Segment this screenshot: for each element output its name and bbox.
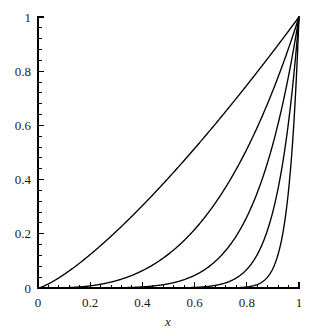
y-tick-label: 0.6 [15, 118, 32, 133]
x-tick-label: 1 [296, 295, 303, 310]
x-axis-title: x [164, 314, 171, 329]
plot-canvas: 00.20.40.60.8100.20.40.60.81 x [0, 0, 319, 336]
x-tick-label: 0.8 [239, 295, 255, 310]
x-tick-label: 0.4 [134, 295, 151, 310]
y-tick-label: 0.4 [15, 172, 32, 187]
y-tick-label: 1 [25, 10, 32, 25]
chart-figure: 00.20.40.60.8100.20.40.60.81 x [0, 0, 319, 336]
y-tick-label: 0.8 [15, 64, 31, 79]
x-tick-label: 0 [35, 295, 42, 310]
y-tick-label: 0 [25, 281, 32, 296]
y-tick-label: 0.2 [15, 226, 31, 241]
x-tick-label: 0.2 [82, 295, 98, 310]
x-tick-label: 0.6 [186, 295, 203, 310]
